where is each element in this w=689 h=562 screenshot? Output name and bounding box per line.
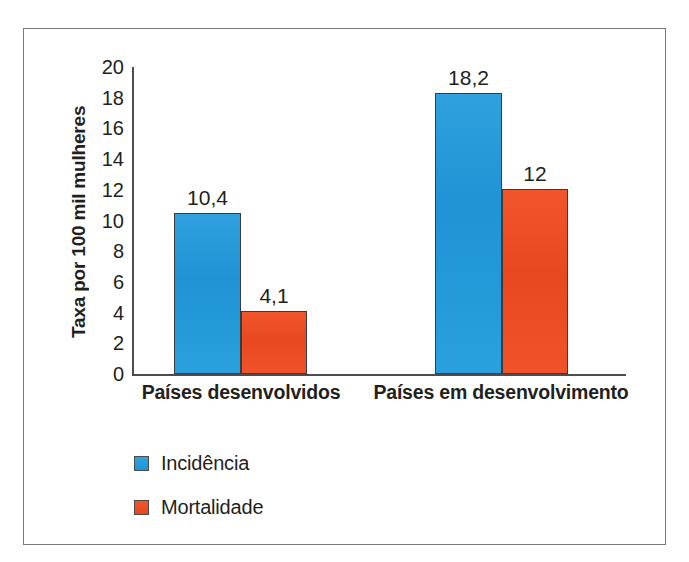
y-tick-label-8: 8 (113, 241, 124, 261)
y-axis-line (132, 67, 134, 376)
bar-value-label: 10,4 (187, 187, 228, 208)
legend-item-incidencia[interactable]: Incidência (134, 441, 263, 485)
legend-swatch-icon (134, 500, 149, 515)
x-axis-category-label-2: Países em desenvolvimento (373, 381, 628, 404)
bar-mortalidade-paises-desenvolvidos[interactable]: 4,1 (241, 311, 307, 374)
y-tick-label-6: 6 (113, 272, 124, 292)
legend-item-label: Mortalidade (161, 496, 263, 519)
y-tick-label-20: 20 (102, 57, 124, 77)
chart-frame: Taxa por 100 mil mulheres 20 18 16 14 12… (23, 28, 666, 545)
y-tick-label-0: 0 (113, 364, 124, 384)
x-axis-category-label-1: Países desenvolvidos (142, 381, 341, 404)
bar-incidencia-paises-em-desenvolvimento[interactable]: 18,2 (435, 93, 502, 374)
y-tick-label-10: 10 (102, 211, 124, 231)
plot-area: 20 18 16 14 12 10 8 6 4 2 0 10,4 4,1 18,… (132, 67, 626, 376)
bar-value-label: 4,1 (259, 285, 288, 306)
legend-item-label: Incidência (161, 452, 249, 475)
bar-value-label: 12 (523, 163, 546, 184)
bar-value-label: 18,2 (448, 67, 489, 88)
y-tick-label-2: 2 (113, 333, 124, 353)
x-axis-line (132, 374, 626, 376)
y-tick-label-4: 4 (113, 303, 124, 323)
legend-item-mortalidade[interactable]: Mortalidade (134, 485, 263, 529)
bar-incidencia-paises-desenvolvidos[interactable]: 10,4 (174, 213, 241, 374)
chart-legend: Incidência Mortalidade (134, 441, 263, 529)
y-axis-title: Taxa por 100 mil mulheres (68, 67, 90, 376)
y-tick-label-14: 14 (102, 149, 124, 169)
bar-mortalidade-paises-em-desenvolvimento[interactable]: 12 (502, 189, 568, 374)
y-tick-label-18: 18 (102, 88, 124, 108)
y-tick-label-16: 16 (102, 118, 124, 138)
legend-swatch-icon (134, 456, 149, 471)
y-tick-label-12: 12 (102, 180, 124, 200)
